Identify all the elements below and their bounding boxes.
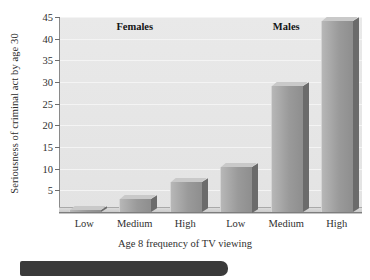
group-title: Females [75,21,195,32]
gridline [59,60,362,61]
x-axis-line [59,212,362,213]
y-tick-mark [55,169,60,170]
bar-top-face [70,206,106,210]
gridline [59,169,362,170]
caption-bar [20,261,228,276]
bar [220,167,252,213]
plot-area [59,17,362,212]
gridline [59,39,362,40]
x-tick-label: Low [226,218,245,229]
x-tick-label: Medium [117,218,153,229]
bar-top-face [221,163,257,167]
y-tick-mark [55,60,60,61]
y-tick-label: 25 [27,98,53,109]
x-tick-label: Medium [268,218,304,229]
y-tick-mark [55,39,60,40]
y-tick-mark [55,147,60,148]
x-tick-label: High [175,218,196,229]
gridline [59,125,362,126]
bar-side-face [252,163,258,212]
bar [69,210,101,212]
y-tick-mark [55,17,60,18]
bar-top-face [120,195,156,199]
y-tick-label: 45 [27,12,53,23]
y-tick-label: 5 [27,185,53,196]
bar-side-face [303,83,309,212]
gridline [59,17,362,18]
y-axis-line [59,17,60,213]
y-tick-label: 20 [27,120,53,131]
gridline [59,147,362,148]
y-tick-mark [55,125,60,126]
bar-top-face [171,178,207,182]
y-tick-label: 40 [27,33,53,44]
y-tick-label: 15 [27,142,53,153]
bar-side-face [353,18,359,212]
bar-top-face [272,82,308,86]
y-axis-title: Seriousness of criminal act by age 30 [9,14,20,214]
gridline [59,82,362,83]
chart-figure: Seriousness of criminal act by age 30 45… [0,0,370,280]
y-tick-mark [55,190,60,191]
bar-side-face [202,178,208,212]
bar [271,86,303,212]
x-axis-title: Age 8 frequency of TV viewing [0,238,370,249]
bar [170,182,202,212]
x-tick-label: Low [75,218,94,229]
y-tick-mark [55,82,60,83]
y-tick-label: 35 [27,55,53,66]
gridline [59,190,362,191]
bar [321,21,353,212]
gridline [59,104,362,105]
y-tick-mark [55,104,60,105]
x-tick-label: High [326,218,347,229]
bar [119,199,151,212]
y-tick-label: 10 [27,163,53,174]
group-title: Males [226,21,346,32]
y-tick-label: 30 [27,77,53,88]
